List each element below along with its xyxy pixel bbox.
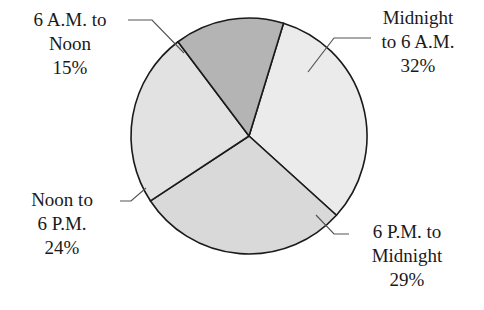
label-percent: 15% — [20, 56, 120, 80]
label-line: 6 A.M. to — [20, 8, 120, 32]
label-line: Midnight — [368, 6, 468, 30]
label-line: Noon — [20, 32, 120, 56]
label-line: Noon to — [12, 188, 112, 212]
label-midnight-6am: Midnight to 6 A.M. 32% — [368, 6, 468, 78]
label-6pm-midnight: 6 P.M. to Midnight 29% — [352, 220, 462, 292]
label-percent: 32% — [368, 54, 468, 78]
leader-line-noon-6pm — [120, 188, 146, 201]
label-line: Midnight — [352, 244, 462, 268]
label-percent: 24% — [12, 236, 112, 260]
label-line: to 6 A.M. — [368, 30, 468, 54]
label-6am-noon: 6 A.M. to Noon 15% — [20, 8, 120, 80]
label-line: 6 P.M. — [12, 212, 112, 236]
label-percent: 29% — [352, 268, 462, 292]
label-line: 6 P.M. to — [352, 220, 462, 244]
label-noon-6pm: Noon to 6 P.M. 24% — [12, 188, 112, 260]
pie-slices — [131, 18, 367, 254]
